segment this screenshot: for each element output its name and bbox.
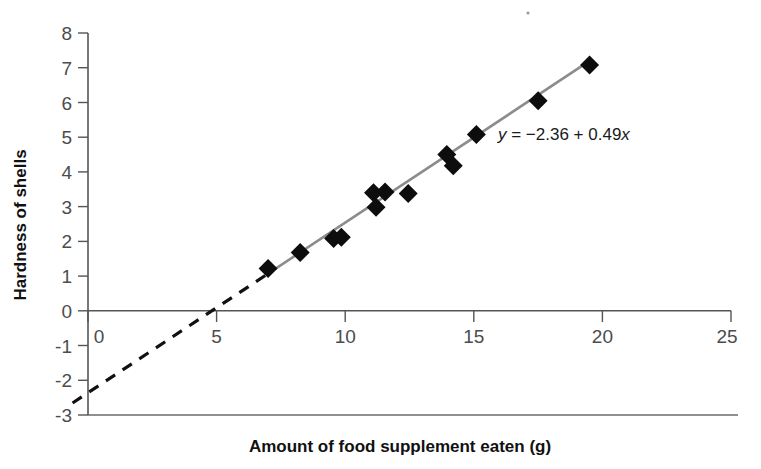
y-tick-label: -3 xyxy=(55,405,72,426)
data-point-marker xyxy=(291,243,310,262)
scan-speck xyxy=(526,11,529,14)
x-tick-label: 0 xyxy=(94,326,105,347)
equation-x-symbol: x xyxy=(620,125,630,144)
data-point-marker xyxy=(376,183,395,202)
regression-equation-annotation: y = −2.36 + 0.49x xyxy=(497,125,630,144)
data-point-marker xyxy=(580,55,599,74)
y-tick-marks xyxy=(78,33,88,415)
x-tick-label: 20 xyxy=(592,326,613,347)
y-tick-label: 6 xyxy=(61,93,72,114)
x-tick-marks xyxy=(88,311,731,322)
y-tick-labels: 8 7 6 5 4 3 2 1 0 -1 -2 -3 xyxy=(55,23,72,426)
y-tick-label: 8 xyxy=(61,23,72,44)
data-point-marker xyxy=(367,198,386,217)
y-tick-label: -1 xyxy=(55,336,72,357)
x-tick-label: 15 xyxy=(463,326,484,347)
y-tick-label: 4 xyxy=(61,162,72,183)
x-tick-label: 5 xyxy=(211,326,222,347)
x-tick-label: 10 xyxy=(335,326,356,347)
y-tick-label: 0 xyxy=(61,301,72,322)
x-tick-label: 25 xyxy=(716,326,737,347)
y-tick-label: 7 xyxy=(61,58,72,79)
x-tick-labels: 0 5 10 15 20 25 xyxy=(94,326,738,347)
y-tick-label: 1 xyxy=(61,266,72,287)
y-tick-label: 5 xyxy=(61,127,72,148)
y-tick-label: 3 xyxy=(61,197,72,218)
y-axis-title: Hardness of shells xyxy=(11,149,30,300)
data-point-marker xyxy=(259,259,278,278)
y-tick-label: 2 xyxy=(61,231,72,252)
data-point-marker xyxy=(529,91,548,110)
x-axis-title: Amount of food supplement eaten (g) xyxy=(249,437,551,456)
scatter-plot-svg: 8 7 6 5 4 3 2 1 0 -1 -2 -3 0 xyxy=(0,0,761,469)
regression-line-solid xyxy=(268,61,589,274)
y-tick-label: -2 xyxy=(55,370,72,391)
equation-body: = −2.36 + 0.49 xyxy=(507,125,622,144)
chart-figure: 8 7 6 5 4 3 2 1 0 -1 -2 -3 0 xyxy=(0,0,761,469)
